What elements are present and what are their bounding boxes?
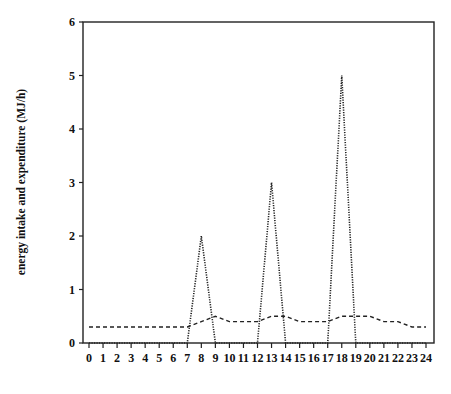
energy-intake-line: [89, 76, 426, 344]
x-tick-label: 7: [184, 351, 190, 365]
y-tick-label: 4: [69, 122, 75, 136]
x-tick-label: 21: [378, 351, 390, 365]
x-tick-label: 17: [322, 351, 334, 365]
x-tick-label: 9: [212, 351, 218, 365]
y-tick-label: 0: [69, 336, 75, 350]
x-tick-label: 1: [100, 351, 106, 365]
x-tick-label: 11: [238, 351, 249, 365]
y-tick-label: 3: [69, 176, 75, 190]
plot-frame: [83, 22, 434, 343]
y-tick-label: 5: [69, 69, 75, 83]
x-tick-label: 10: [223, 351, 235, 365]
y-tick-label: 6: [69, 15, 75, 29]
y-tick-label: 1: [69, 283, 75, 297]
y-tick-label: 2: [69, 229, 75, 243]
x-tick-label: 0: [86, 351, 92, 365]
x-tick-label: 24: [420, 351, 432, 365]
x-tick-label: 6: [170, 351, 176, 365]
y-axis: 0123456: [69, 15, 83, 350]
x-tick-label: 18: [336, 351, 348, 365]
y-axis-title: energy intake and expenditure (MJ/h): [15, 89, 28, 276]
x-tick-label: 22: [392, 351, 404, 365]
x-tick-label: 2: [114, 351, 120, 365]
x-tick-label: 12: [252, 351, 264, 365]
plot-area: [89, 76, 426, 344]
x-tick-label: 13: [266, 351, 278, 365]
x-tick-label: 23: [406, 351, 418, 365]
x-tick-label: 14: [280, 351, 292, 365]
x-tick-label: 19: [350, 351, 362, 365]
chart: 0123456 01234567891011121314151617181920…: [0, 0, 451, 394]
x-tick-label: 5: [156, 351, 162, 365]
x-tick-label: 3: [128, 351, 134, 365]
x-tick-label: 15: [294, 351, 306, 365]
x-tick-label: 8: [198, 351, 204, 365]
x-tick-label: 20: [364, 351, 376, 365]
x-axis: 0123456789101112131415161718192021222324: [86, 343, 432, 365]
x-tick-label: 16: [308, 351, 320, 365]
x-tick-label: 4: [142, 351, 148, 365]
energy-expenditure-line: [89, 316, 426, 327]
